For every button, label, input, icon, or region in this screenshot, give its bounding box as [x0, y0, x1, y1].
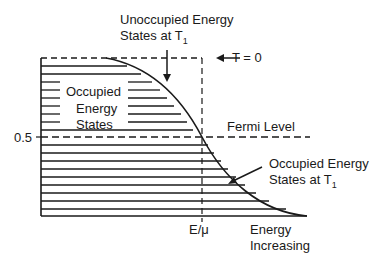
occupied-label-3: States	[76, 117, 113, 132]
arrow-head-diagonal-icon	[228, 177, 237, 184]
unoccupied-label-1: Unoccupied Energy	[120, 12, 234, 27]
fermi-level-label: Fermi Level	[227, 119, 295, 134]
unoccupied-label-2: States at T1	[120, 28, 188, 46]
energy-label-1: Energy	[250, 222, 292, 237]
occupied-label-2: Energy	[76, 101, 118, 116]
fermi-diagram: Unoccupied Energy States at T1 T = 0 Occ…	[0, 0, 390, 267]
hatch-lower	[41, 145, 286, 209]
occupied-label-1: Occupied	[66, 84, 121, 99]
arrow-head-down-icon	[163, 74, 171, 82]
energy-label-2: Increasing	[250, 238, 310, 253]
occupied-t1-label-1: Occupied Energy	[269, 156, 369, 171]
arrow-head-left-icon	[216, 54, 224, 62]
occupied-t1-arrow	[233, 167, 262, 181]
t-zero-label: T = 0	[232, 50, 262, 65]
x-marker-label: E/μ	[189, 222, 209, 237]
y-tick-label: 0.5	[14, 130, 32, 145]
occupied-t1-label-2: States at T1	[269, 172, 337, 190]
